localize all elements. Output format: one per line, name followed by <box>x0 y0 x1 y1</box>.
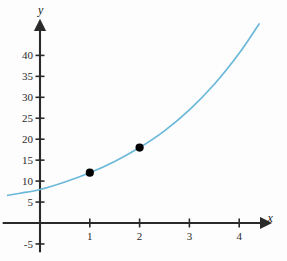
y-tick-label: -5 <box>24 238 33 249</box>
y-tick-label: 35 <box>22 71 33 82</box>
y-tick-label: 25 <box>22 113 33 124</box>
y-tick-label: 10 <box>22 176 33 187</box>
y-tick-label: 15 <box>22 155 33 166</box>
x-tick-label: 4 <box>236 231 242 242</box>
axes <box>3 29 262 252</box>
x-tick-label: 3 <box>187 231 193 242</box>
x-axis-label: x <box>268 212 273 224</box>
plot-area <box>0 0 287 261</box>
x-tick-label: 2 <box>137 231 143 242</box>
y-axis-label: y <box>38 4 43 16</box>
y-tick-label: 5 <box>28 197 34 208</box>
exponential-graph-figure: 403530252015105-5 1234 y x <box>0 0 287 261</box>
y-tick-label: 40 <box>22 50 33 61</box>
x-tick-label: 1 <box>87 231 93 242</box>
y-tick-label: 30 <box>22 92 33 103</box>
y-tick-label: 20 <box>22 134 33 145</box>
exponential-curve <box>8 24 259 195</box>
data-point-markers <box>86 143 144 176</box>
